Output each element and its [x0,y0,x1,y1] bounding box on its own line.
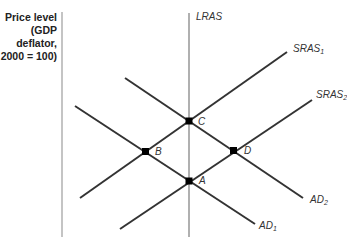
ad2-curve [125,78,303,198]
point-d-label: D [244,145,251,156]
sras2-label: SRAS2 [316,89,347,101]
point-a-marker [186,178,193,185]
point-d-marker [230,147,237,154]
ad1-curve [75,106,255,224]
point-c-label: C [198,116,206,127]
lras-label: LRAS [196,11,222,22]
point-b-label: B [155,146,162,157]
sras1-label: SRAS1 [293,43,324,55]
point-c-marker [186,118,193,125]
point-b-marker [142,148,149,155]
sras2-curve [120,100,312,229]
ad2-label: AD2 [309,194,328,206]
ad-as-diagram: LRAS SRAS1 SRAS2 AD2 AD1 C B D A [0,0,347,237]
point-a-label: A [198,175,206,186]
ad1-label: AD1 [258,220,277,232]
